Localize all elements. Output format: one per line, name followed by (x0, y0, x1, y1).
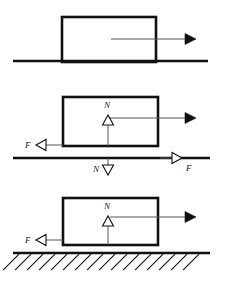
normal-force-up-arrow: N (103, 100, 114, 146)
diagram-canvas: NFNFNF (0, 0, 226, 281)
applied-force-arrow (110, 212, 196, 223)
normal-force-up-arrow: N (103, 201, 114, 245)
applied-force-arrow (111, 34, 196, 45)
hatch-line (183, 254, 199, 270)
panel-1 (13, 17, 208, 62)
arrow-head-hollow (103, 115, 114, 125)
hatch-line (3, 254, 19, 270)
normal-reaction-down-label: N (92, 164, 100, 174)
arrow-head-hollow (172, 153, 182, 164)
hatch-line (99, 254, 115, 270)
hatch-line (159, 254, 175, 270)
hatch-line (147, 254, 163, 270)
panel-3: NF (3, 198, 210, 270)
friction-reaction-right-arrow: F (160, 153, 192, 174)
applied-force-arrow (110, 113, 196, 124)
hatch-line (39, 254, 55, 270)
hatch-line (87, 254, 103, 270)
hatch-line (123, 254, 139, 270)
hatch-line (111, 254, 127, 270)
friction-on-block-arrow: F (24, 235, 63, 246)
friction-on-block-label: F (24, 140, 31, 150)
friction-on-block-label: F (24, 235, 31, 245)
ground-hatching (3, 254, 199, 270)
hatch-line (15, 254, 31, 270)
friction-reaction-right-label: F (185, 163, 192, 173)
hatch-line (63, 254, 79, 270)
normal-force-up-label: N (103, 201, 111, 211)
physics-free-body-diagram: NFNFNF (0, 0, 226, 281)
panel-2: NFNF (13, 97, 210, 175)
arrow-head-filled (185, 34, 196, 45)
friction-on-block-arrow: F (24, 140, 63, 151)
normal-force-up-label: N (103, 100, 111, 110)
arrow-head-filled (185, 212, 196, 223)
normal-reaction-down-arrow: N (92, 158, 114, 175)
arrow-head-hollow (103, 165, 114, 175)
hatch-line (51, 254, 67, 270)
hatch-line (171, 254, 187, 270)
hatch-line (27, 254, 43, 270)
arrow-head-hollow (36, 140, 46, 151)
arrow-head-hollow (36, 235, 46, 246)
arrow-head-filled (185, 113, 196, 124)
hatch-line (75, 254, 91, 270)
hatch-line (135, 254, 151, 270)
